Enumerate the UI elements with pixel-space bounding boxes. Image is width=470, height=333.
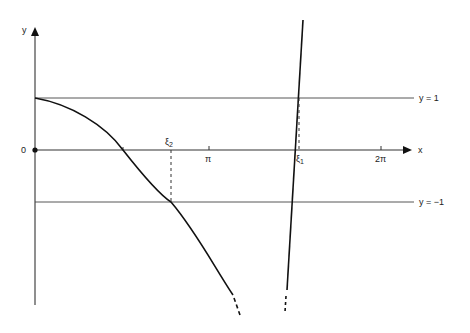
decreasing-curve-continuation	[234, 298, 240, 315]
line-label-y1: y = 1	[419, 93, 439, 103]
decreasing-curve	[35, 98, 233, 295]
y-axis-arrow-icon	[31, 27, 39, 36]
root-label-xi1: ξ1	[296, 154, 304, 165]
root-label-xi2: ξ2	[165, 137, 173, 148]
x-axis-arrow-icon	[403, 146, 412, 154]
y-axis-label: y	[22, 25, 27, 35]
steep-curve-continuation	[285, 296, 286, 312]
steep-curve	[287, 20, 303, 290]
origin-dot	[32, 147, 37, 152]
diagram-canvas: y x 0 π 2π y = 1 y = −1 ξ2 ξ1	[0, 0, 470, 333]
line-label-y-minus-1: y = −1	[419, 197, 444, 207]
x-axis-label: x	[418, 145, 423, 155]
tick-label-pi: π	[205, 154, 211, 164]
origin-label: 0	[21, 145, 26, 155]
tick-label-2pi: 2π	[375, 154, 386, 164]
